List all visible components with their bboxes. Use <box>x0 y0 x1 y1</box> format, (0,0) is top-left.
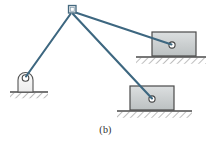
lower-block-ground <box>117 111 192 118</box>
upper-right-block <box>152 32 196 56</box>
left-ground-hatching <box>10 92 48 98</box>
figure-container: (b) <box>0 0 211 145</box>
left-support-ground <box>10 92 48 98</box>
figure-caption: (b) <box>0 124 211 135</box>
lower-ground-hatching <box>117 111 192 118</box>
cable-apex-to-left-support <box>26 14 71 77</box>
cable-apex-to-lower-block <box>73 14 152 99</box>
apex-bracket-pin <box>70 7 74 11</box>
upper-block-ground <box>136 57 206 64</box>
upper-ground-hatching <box>136 57 206 64</box>
apex-pulley-bracket <box>69 6 77 14</box>
cable-apex-to-upper-block <box>74 12 172 45</box>
